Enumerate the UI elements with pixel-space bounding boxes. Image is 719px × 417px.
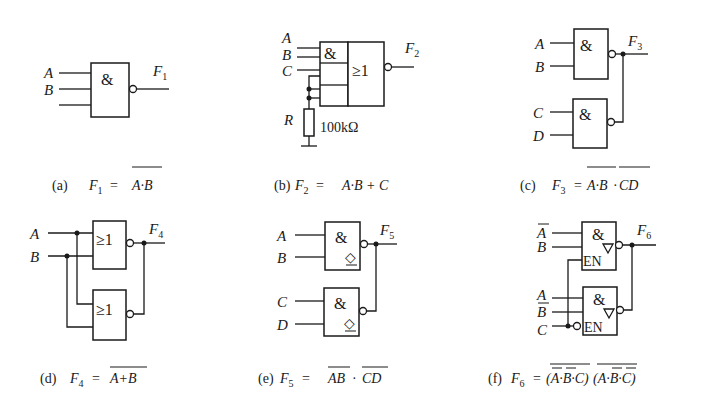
and-symbol: & <box>593 291 606 308</box>
input-d-label: D <box>532 128 544 144</box>
input-c-label: C <box>537 322 548 338</box>
input-c-label: C <box>282 63 293 79</box>
logic-gates-figure: & A B F1 (a) F1 = A·B & ≥1 R 100kΩ <box>0 0 719 417</box>
input-b-label: B <box>282 47 291 63</box>
caption-expression-part1: (A·B·C) <box>546 371 589 387</box>
output-label: F5 <box>379 222 394 241</box>
input-a-label: A <box>276 228 287 244</box>
expression-separator: · <box>613 178 618 193</box>
and-symbol: & <box>101 71 114 88</box>
input-b-label: B <box>535 59 544 75</box>
caption-expression-part1: A·B <box>586 178 608 193</box>
caption-output: F5 <box>279 371 294 389</box>
enable-label: EN <box>583 254 602 269</box>
panel-f: & EN & EN A B A B C F6 (f) F6 = (A·B·C) … <box>488 222 656 389</box>
caption-output: F3 <box>551 178 566 196</box>
panel-c: & & A B C D F3 (c) F3 = A·B · CD <box>520 29 650 196</box>
panel-b: & ≥1 R 100kΩ A B C F2 (b) F2 = A·B + C <box>274 30 419 196</box>
resistor-value: 100kΩ <box>320 120 358 135</box>
inversion-bubble <box>130 86 137 93</box>
caption-tag: (e) <box>258 371 274 387</box>
inversion-bubble <box>385 64 392 71</box>
equals-sign: = <box>574 178 582 193</box>
caption-expression: A+B <box>109 371 137 386</box>
input-b-label: B <box>44 82 53 98</box>
input-a-label: A <box>43 65 54 81</box>
caption-output: F6 <box>510 371 525 389</box>
open-drain-icon: ◇ <box>344 316 355 331</box>
input-c-label: C <box>277 294 288 310</box>
caption-output: F1 <box>88 178 103 196</box>
input-b-label: B <box>277 250 286 266</box>
input-a-label: A <box>281 30 292 46</box>
caption-expression: A·B <box>131 178 153 193</box>
input-d-label: D <box>276 317 288 333</box>
equals-sign: = <box>316 178 324 193</box>
caption-tag: (f) <box>488 371 502 387</box>
resistor <box>304 109 314 136</box>
and-symbol: & <box>580 37 593 54</box>
equals-sign: = <box>110 178 118 193</box>
and-symbol: & <box>334 295 347 312</box>
input-b-label: B <box>30 249 39 265</box>
resistor-label: R <box>283 112 293 128</box>
or-symbol: ≥1 <box>96 231 113 248</box>
or-symbol: ≥1 <box>352 62 369 79</box>
caption-expression-part1: AB <box>327 371 346 386</box>
equals-sign: = <box>92 371 100 386</box>
input-not-b-label: B <box>537 304 546 320</box>
open-drain-icon: ◇ <box>345 250 356 265</box>
panel-a: & A B F1 (a) F1 = A·B <box>43 63 169 196</box>
caption-tag: (a) <box>52 178 68 194</box>
equals-sign: = <box>533 371 541 386</box>
caption-tag: (c) <box>520 178 536 194</box>
input-a-label: A <box>536 287 547 303</box>
output-label: F1 <box>152 63 167 82</box>
output-label: F4 <box>148 221 163 240</box>
caption-expression: A·B + C <box>341 178 389 193</box>
output-label: F2 <box>404 40 419 59</box>
input-c-label: C <box>533 105 544 121</box>
caption-expression-part2: CD <box>619 178 638 193</box>
and-symbol: & <box>335 229 348 246</box>
caption-tag: (b) <box>274 178 291 194</box>
and-symbol: & <box>592 226 605 243</box>
panel-e: & ◇ & ◇ A B C D F5 (e) F5 = AB · CD <box>258 222 397 389</box>
and-symbol: & <box>579 106 592 123</box>
and-symbol: & <box>324 45 337 62</box>
caption-expression-part2: (A·B·C) <box>593 371 636 387</box>
output-label: F3 <box>627 33 642 52</box>
input-a-label: A <box>29 226 40 242</box>
output-label: F6 <box>636 222 651 241</box>
caption-output: F4 <box>69 371 84 389</box>
expression-separator: · <box>352 371 357 386</box>
equals-sign: = <box>302 371 310 386</box>
caption-output: F2 <box>294 178 309 196</box>
caption-expression-part2: CD <box>362 371 381 386</box>
input-a-label: A <box>534 36 545 52</box>
enable-label: EN <box>584 320 603 335</box>
or-symbol: ≥1 <box>96 301 113 318</box>
input-b-label: B <box>537 239 546 255</box>
panel-d: ≥1 ≥1 A B F4 (d) F4 = A+B <box>29 221 165 389</box>
caption-tag: (d) <box>40 371 57 387</box>
